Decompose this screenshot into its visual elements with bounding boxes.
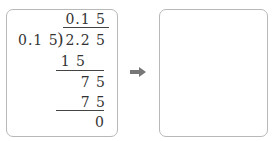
step-remainder-1: 7 5 [70,75,106,89]
step-subtract-2: 7 5 [70,95,106,109]
step-subtract-1: 1 5 [60,54,86,68]
step-line-2 [56,110,104,111]
quotient: 0.1 5 [60,12,106,26]
divisor: 0.1 5 [18,33,58,47]
dividend: 2.2 5 [60,33,106,47]
division-bar [63,27,109,28]
step-line-1 [56,70,104,71]
right-answer-panel [159,9,268,137]
step-remainder-final: 0 [70,115,105,129]
right-arrow-icon [130,67,146,77]
